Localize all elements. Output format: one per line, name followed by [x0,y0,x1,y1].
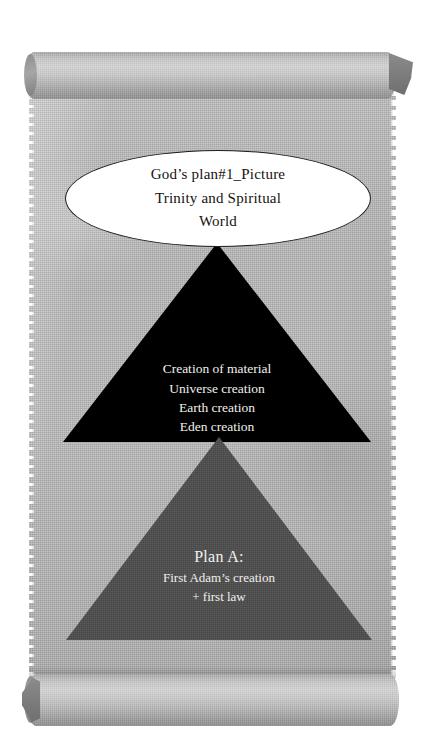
triangle-creation-text: Creation of material Universe creation E… [63,359,371,436]
bottom-scroll-roll [27,674,399,726]
top-scroll-roll [25,52,396,99]
plan-a-heading: Plan A: [66,546,372,569]
title-line-1: God’s plan#1_Picture [151,163,285,187]
plan-a-line-2: + first law [66,588,372,606]
sheet-left-ragged-edge [28,96,35,674]
title-ellipse: God’s plan#1_Picture Trinity and Spiritu… [65,150,371,247]
top-roll-end-cap [24,54,37,96]
triangle-creation: Creation of material Universe creation E… [63,243,371,442]
plan-a-line-1: First Adam’s creation [66,569,372,587]
triangle-plan-a: Plan A: First Adam’s creation + first la… [66,437,372,640]
title-ellipse-text: God’s plan#1_Picture Trinity and Spiritu… [151,163,285,234]
scroll-diagram-canvas: Creation of material Universe creation E… [0,0,428,754]
top-roll-tail-flap [389,53,413,95]
sheet-right-ragged-edge [390,96,397,674]
creation-line-4: Eden creation [63,417,371,436]
triangle-plan-a-shape [66,437,372,640]
title-line-2: Trinity and Spiritual [151,187,285,211]
triangle-plan-a-text: Plan A: First Adam’s creation + first la… [66,546,372,606]
title-line-3: World [151,210,285,234]
creation-line-2: Universe creation [63,379,371,398]
creation-line-1: Creation of material [63,359,371,378]
creation-line-3: Earth creation [63,398,371,417]
